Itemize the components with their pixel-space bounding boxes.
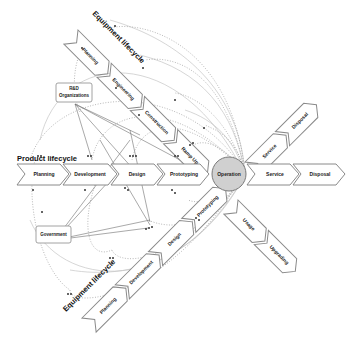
government-box[interactable]: Government	[36, 226, 71, 243]
rd-organizations-box[interactable]: R&D Organizations	[56, 83, 92, 102]
government-label: Government	[40, 232, 67, 237]
stage-label: Prototyping	[170, 171, 198, 177]
stage-label: Service	[266, 171, 284, 177]
equipment-lifecycle-bottom: Planning Development Design Prototyping …	[61, 182, 233, 333]
stage-label: Development	[74, 171, 106, 177]
stage-label: Planning	[33, 171, 54, 177]
product-lifecycle-title: Product lifecycle	[17, 154, 77, 163]
rd-label-line1: R&D	[69, 86, 79, 91]
rd-label-line2: Organizations	[59, 93, 90, 98]
lower-right-branch: Usage Upgrading	[224, 200, 302, 278]
lifecycle-diagram: Planning Engineering Construction Ramp U…	[0, 0, 358, 340]
operation-label: Operation	[217, 171, 241, 177]
stage-label: Disposal	[310, 171, 331, 177]
stage-label: Design	[129, 171, 146, 177]
operation-node[interactable]: Operation	[212, 157, 246, 191]
right-main-row: Service Disposal	[247, 164, 345, 185]
